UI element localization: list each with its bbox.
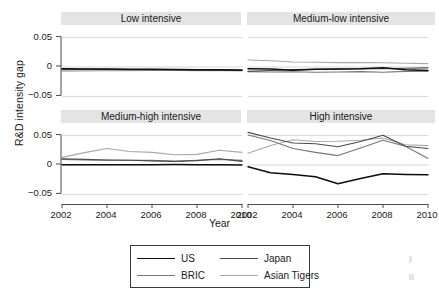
legend-label-bric: BRIC bbox=[181, 270, 205, 281]
chart-figure: R&D intensity gap Year Low intensiveMedi… bbox=[0, 0, 439, 295]
series-line-asian-tigers bbox=[62, 149, 242, 158]
chart-legend: US Japan BRIC Asian Tigers bbox=[130, 245, 310, 288]
y-tick-label: −0.05 bbox=[14, 89, 52, 100]
legend-swatch-asian-tigers bbox=[220, 275, 258, 276]
y-tick-label: 0 bbox=[14, 158, 52, 169]
legend-row: US Japan bbox=[137, 250, 303, 267]
x-tick-label: 2010 bbox=[410, 209, 439, 220]
legend-item-bric[interactable]: BRIC bbox=[137, 270, 220, 281]
legend-label-us: US bbox=[181, 253, 195, 264]
plot-area-low-intensive bbox=[61, 26, 243, 108]
legend-item-asian-tigers[interactable]: Asian Tigers bbox=[220, 270, 303, 281]
y-tick-label: −0.05 bbox=[14, 187, 52, 198]
series-line-us bbox=[248, 167, 428, 184]
series-line-asian-tigers bbox=[248, 138, 428, 153]
x-tick-label: 2008 bbox=[179, 209, 213, 220]
x-tick-label: 2008 bbox=[365, 209, 399, 220]
legend-swatch-bric bbox=[137, 275, 175, 276]
x-tick-label: 2006 bbox=[134, 209, 168, 220]
x-tick-label: 2004 bbox=[275, 209, 309, 220]
panel-title-low-intensive: Low intensive bbox=[61, 12, 241, 25]
scan-artifact bbox=[409, 274, 414, 280]
legend-swatch-us bbox=[137, 258, 175, 259]
y-axis-row-1 bbox=[52, 121, 66, 209]
scan-artifact bbox=[409, 256, 412, 263]
y-tick-label: 0.05 bbox=[14, 129, 52, 140]
panel-title-high-intensive: High intensive bbox=[247, 110, 435, 123]
y-tick-label: 0.05 bbox=[14, 31, 52, 42]
x-tick-label: 2004 bbox=[89, 209, 123, 220]
series-line-asian-tigers bbox=[248, 60, 428, 64]
plot-area-medium-high-intensive bbox=[61, 124, 243, 206]
series-line-japan bbox=[248, 132, 428, 148]
x-tick-label: 2002 bbox=[230, 209, 264, 220]
legend-swatch-japan bbox=[220, 258, 258, 259]
y-axis-label: R&D intensity gap bbox=[13, 38, 25, 168]
x-tick-label: 2002 bbox=[44, 209, 78, 220]
legend-item-us[interactable]: US bbox=[137, 253, 220, 264]
plot-area-high-intensive bbox=[247, 124, 429, 206]
x-tick-label: 2006 bbox=[320, 209, 354, 220]
panel-title-medium-high-intensive: Medium-high intensive bbox=[61, 110, 241, 123]
legend-item-japan[interactable]: Japan bbox=[220, 253, 303, 264]
legend-label-japan: Japan bbox=[264, 253, 291, 264]
legend-label-asian-tigers: Asian Tigers bbox=[264, 270, 319, 281]
series-line-bric bbox=[248, 71, 428, 72]
panel-title-medium-low-intensive: Medium-low intensive bbox=[247, 12, 435, 25]
legend-row: BRIC Asian Tigers bbox=[137, 267, 303, 284]
y-axis-row-0 bbox=[52, 23, 66, 111]
plot-area-medium-low-intensive bbox=[247, 26, 429, 108]
y-tick-label: 0 bbox=[14, 60, 52, 71]
